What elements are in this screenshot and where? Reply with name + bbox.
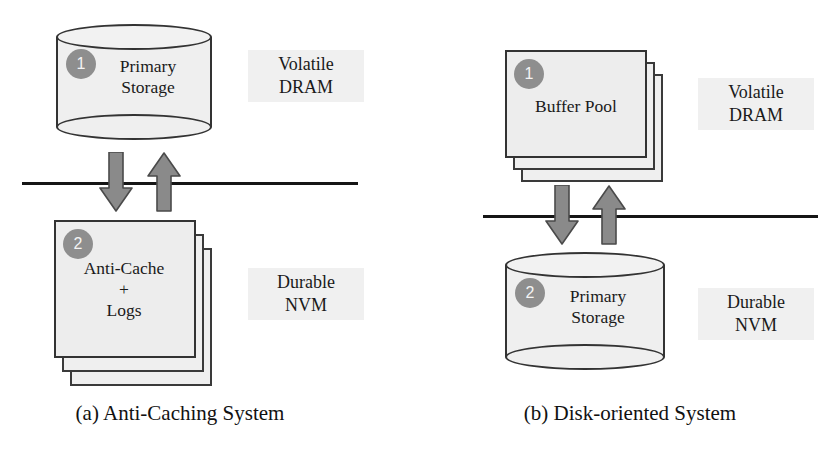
volatile-dram-label: Volatile DRAM [248, 50, 364, 102]
cylinder-bottom-ellipse [505, 344, 665, 370]
panel-a-caption: (a) Anti-Caching System [0, 400, 360, 426]
evict-arrow-down-icon [99, 152, 133, 212]
volatile-dram-label: Volatile DRAM [698, 78, 814, 130]
panel-b-caption: (b) Disk-oriented System [450, 400, 810, 426]
primary-storage-cylinder [56, 24, 212, 140]
fetch-arrow-up-icon [147, 152, 181, 212]
durable-nvm-label: Durable NVM [248, 268, 364, 320]
primary-storage-cylinder [505, 252, 665, 370]
cylinder-bottom-ellipse [56, 114, 212, 140]
panel-disk-oriented-system: 1 Buffer Pool Volatile DRAM 2 Primary St… [420, 0, 840, 449]
step-badge-2: 2 [63, 229, 93, 259]
durable-nvm-label: Durable NVM [698, 288, 814, 340]
step-badge-1: 1 [514, 59, 544, 89]
cylinder-top-ellipse [56, 24, 212, 50]
read-arrow-up-icon [592, 185, 626, 245]
memory-storage-boundary [22, 182, 358, 185]
figure-root: 1 Primary Storage Volatile DRAM 2 Anti-C… [0, 0, 840, 449]
write-arrow-down-icon [545, 185, 579, 245]
step-badge-2: 2 [515, 278, 545, 308]
step-badge-1: 1 [66, 49, 96, 79]
memory-storage-boundary [483, 215, 818, 218]
panel-anti-caching-system: 1 Primary Storage Volatile DRAM 2 Anti-C… [0, 0, 420, 449]
cylinder-top-ellipse [505, 252, 665, 278]
